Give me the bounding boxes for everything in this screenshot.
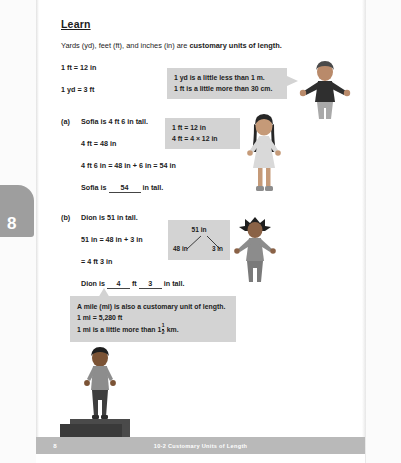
part-b-answer-suffix: in tall. bbox=[164, 279, 185, 288]
part-a-step-2: 4 ft 6 in = 48 in + 6 in = 54 in bbox=[81, 161, 176, 170]
problem-part-b: (b) Dion is 51 in tall. 51 in = 48 in + … bbox=[61, 213, 185, 289]
page-right-edge-shadow bbox=[362, 0, 366, 463]
mile-callout-line-2: 1 mi = 5,280 ft bbox=[77, 313, 229, 324]
sofia-figure bbox=[240, 112, 288, 198]
dion-figure bbox=[231, 216, 279, 288]
page-tab-number: 8 bbox=[0, 215, 16, 237]
part-b-answer-unit-ft: ft bbox=[132, 279, 137, 288]
footer-page-number: 8 bbox=[44, 437, 66, 454]
mile-callout-line-3-suffix: km. bbox=[165, 326, 179, 333]
mile-callout-line-3-prefix: 1 mi is a little more than 1 bbox=[77, 326, 161, 333]
feet-callout-line-1: 1 ft = 12 in bbox=[172, 123, 233, 134]
worksheet-page: 8 Learn Yards (yd), feet (ft), and inche… bbox=[0, 0, 401, 463]
feet-callout-line-2: 4 ft = 4 × 12 in bbox=[172, 134, 233, 145]
problem-part-a: (a) Sofia is 4 ft 6 in tall. 4 ft = 48 i… bbox=[61, 117, 176, 193]
part-a-answer-blank[interactable]: 54 bbox=[109, 183, 141, 193]
page-left-edge-shadow bbox=[36, 0, 39, 463]
part-b-answer-prefix: Dion is bbox=[81, 279, 105, 288]
footer-black-block bbox=[60, 424, 122, 438]
mile-callout-line-3: 1 mi is a little more than 112 km. bbox=[77, 323, 229, 335]
part-b-answer-line: Dion is 4 ft 3 in tall. bbox=[81, 279, 185, 289]
page-footer: 10-2 Customary Units of Length bbox=[36, 437, 365, 454]
footer-bottom-strip bbox=[36, 454, 365, 463]
mile-callout: A mile (mi) is also a customary unit of … bbox=[70, 296, 236, 342]
feet-to-inches-callout: 1 ft = 12 in 4 ft = 4 × 12 in bbox=[165, 118, 240, 149]
lesson-intro-plain: Yards (yd), feet (ft), and inches (in) a… bbox=[61, 41, 189, 50]
number-bond-diagram: 51 in 48 in 3 in bbox=[168, 220, 230, 260]
part-a-answer-prefix: Sofia is bbox=[81, 183, 107, 192]
part-a-step-1: 4 ft = 48 in bbox=[81, 139, 176, 148]
number-bond-inner: 51 in 48 in 3 in bbox=[173, 224, 225, 256]
metric-comparison-callout: 1 yd is a little less than 1 m. 1 ft is … bbox=[167, 68, 287, 99]
metric-callout-line-1: 1 yd is a little less than 1 m. bbox=[174, 73, 280, 84]
footer-lesson-label: 10-2 Customary Units of Length bbox=[154, 443, 248, 449]
part-a-prompt: Sofia is 4 ft 6 in tall. bbox=[81, 117, 176, 126]
mile-callout-line-1: A mile (mi) is also a customary unit of … bbox=[77, 302, 229, 313]
metric-callout-line-2: 1 ft is a little more than 30 cm. bbox=[174, 84, 280, 95]
number-bond-part-right: 3 in bbox=[212, 244, 223, 254]
part-a-answer-suffix: in tall. bbox=[143, 183, 164, 192]
lesson-intro: Yards (yd), feet (ft), and inches (in) a… bbox=[61, 41, 351, 50]
part-b-label: (b) bbox=[61, 213, 70, 222]
lesson-heading: Learn bbox=[61, 18, 351, 30]
part-a-answer-line: Sofia is 54 in tall. bbox=[81, 183, 176, 193]
lesson-intro-bold: customary units of length. bbox=[189, 41, 281, 50]
teacher-figure bbox=[296, 60, 354, 124]
part-b-answer-blank-feet[interactable]: 4 bbox=[107, 279, 130, 289]
page-outer-right-margin bbox=[366, 0, 401, 463]
part-a-label: (a) bbox=[61, 117, 70, 126]
page-number-tab[interactable]: 8 bbox=[0, 185, 34, 237]
part-b-answer-blank-inches[interactable]: 3 bbox=[139, 279, 162, 289]
number-bond-part-left: 48 in bbox=[173, 244, 188, 254]
part-a-body: Sofia is 4 ft 6 in tall. 4 ft = 48 in 4 … bbox=[81, 117, 176, 193]
